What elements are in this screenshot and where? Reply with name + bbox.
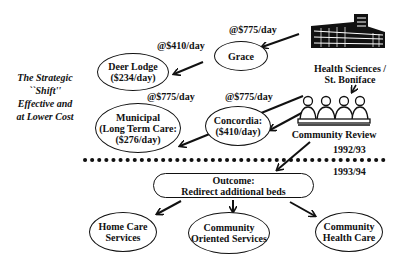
facility-deer-lodge: Deer Lodge ($234/day) (97, 53, 169, 91)
rate-label-municipal: @$775/day (147, 91, 195, 102)
facility-rate: ($234/day) (111, 72, 156, 83)
caption-line: at Lower Cost (10, 110, 80, 123)
result-line: Home Care (99, 221, 148, 232)
result-line: Services (106, 232, 141, 243)
meeting-group-icon (296, 94, 372, 128)
result-line: Health Care (323, 232, 375, 243)
arrow-hospital-to-review (352, 85, 356, 92)
hospital-label-line: Health Sciences / (300, 63, 400, 74)
result-community-oriented-services: Community Oriented Services (188, 212, 270, 254)
caption-line: The Strategic (10, 71, 80, 84)
caption-line: ``Shift'' (10, 84, 80, 97)
result-line: Community (203, 222, 254, 233)
rate-label-deer-lodge: @$410/day (157, 40, 205, 51)
hospital-building-icon (311, 14, 387, 50)
strategic-shift-caption: The Strategic ``Shift'' Effective and at… (10, 71, 80, 123)
result-community-health-care: Community Health Care (315, 212, 383, 252)
outcome-title: Outcome: (212, 175, 254, 186)
caption-line: Effective and (10, 97, 80, 110)
facility-name: Grace (228, 51, 254, 62)
result-line: Oriented Services (191, 233, 267, 244)
outcome-text: Redirect additional beds (181, 186, 285, 197)
period-label-before: 1992/93 (333, 144, 366, 155)
arrow-outcome-to-homecare (157, 201, 181, 214)
rate-label-grace: @$775/day (229, 24, 277, 35)
facility-rate: ($410/day) (216, 126, 261, 137)
facility-municipal: Municipal (Long Term Care: ($276/day) (95, 103, 181, 153)
arrow-outcome-to-community-health (290, 202, 315, 216)
result-home-care-services: Home Care Services (89, 212, 157, 252)
community-review-label: Community Review (284, 129, 384, 140)
hospital-label: Health Sciences / St. Boniface (300, 63, 400, 85)
period-label-after: 1993/94 (333, 166, 366, 177)
outcome-box: Outcome: Redirect additional beds (153, 173, 314, 198)
hospital-label-line: St. Boniface (300, 74, 400, 85)
facility-grace: Grace (214, 41, 268, 71)
facility-type: (Long Term Care: (99, 123, 177, 134)
facility-name: Concordia: (214, 115, 262, 126)
facility-name: Deer Lodge (108, 61, 158, 72)
arrow-review-to-outcome (277, 142, 310, 170)
arrow-hospital-to-grace (262, 34, 299, 47)
facility-concordia: Concordia: ($410/day) (205, 106, 271, 146)
arrow-grace-to-deerlodge (174, 62, 203, 74)
facility-rate: ($276/day) (116, 134, 161, 145)
facility-name: Municipal (116, 112, 160, 123)
result-line: Community (323, 221, 374, 232)
rate-label-concordia: @$775/day (225, 91, 273, 102)
